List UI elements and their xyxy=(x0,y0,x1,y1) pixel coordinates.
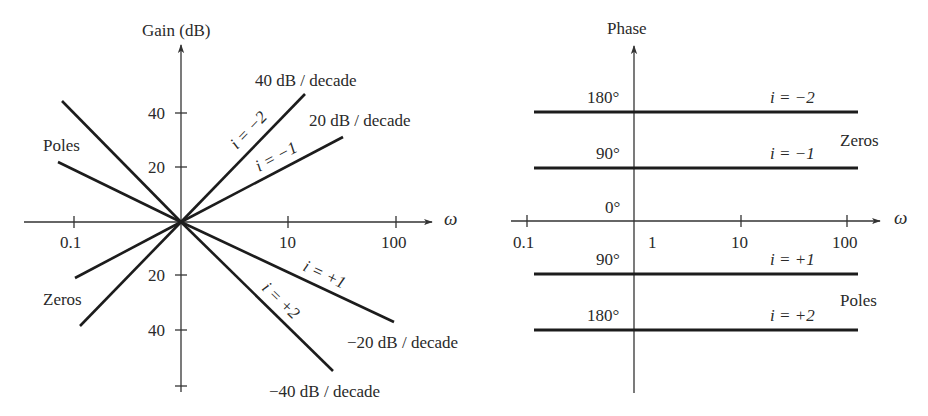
phase-x-tick-label-10: 10 xyxy=(731,233,748,252)
gain-y-tick-label-neg40: 40 xyxy=(148,321,165,340)
gain-x-tick-label-10: 10 xyxy=(279,233,296,252)
gain-poles-label: Poles xyxy=(43,136,80,155)
bode-asymptote-diagram: Gain (dB) ω 0.1 10 100 40 20 20 40 Poles… xyxy=(0,0,928,416)
gain-line-label-i-minus-2: i = −2 xyxy=(226,107,271,153)
gain-line-i-minus-1 xyxy=(181,137,343,222)
phase-level-label-neg90: 90° xyxy=(596,250,620,269)
gain-line-zeros-steep xyxy=(80,222,181,326)
gain-line-zeros-shallow xyxy=(75,222,181,278)
phase-line-label-i-plus-2: i = +2 xyxy=(770,306,815,325)
gain-x-tick-label-100: 100 xyxy=(381,233,407,252)
phase-x-tick-label-0.1: 0.1 xyxy=(513,233,534,252)
gain-line-label-i-minus-1: i = −1 xyxy=(252,138,300,176)
phase-level-label-180: 180° xyxy=(587,88,619,107)
gain-y-tick-label-20: 20 xyxy=(148,158,165,177)
gain-x-axis-label: ω xyxy=(444,208,457,229)
gain-x-tick-label-0.1: 0.1 xyxy=(60,233,81,252)
phase-line-label-i-plus-1: i = +1 xyxy=(770,250,815,269)
gain-y-tick-label-40: 40 xyxy=(148,104,165,123)
phase-level-label-neg180: 180° xyxy=(587,306,619,325)
phase-poles-label: Poles xyxy=(840,291,877,310)
gain-plot: Gain (dB) ω 0.1 10 100 40 20 20 40 Poles… xyxy=(24,21,458,401)
phase-level-label-0: 0° xyxy=(605,198,620,217)
gain-y-axis-label: Gain (dB) xyxy=(142,21,210,40)
phase-line-label-i-minus-1: i = −1 xyxy=(770,144,815,163)
phase-x-tick-label-1: 1 xyxy=(648,233,657,252)
gain-y-tick-label-neg20: 20 xyxy=(148,266,165,285)
slope-label-plus40: 40 dB / decade xyxy=(255,71,357,90)
gain-zeros-label: Zeros xyxy=(43,290,82,309)
phase-x-axis-label: ω xyxy=(894,207,907,228)
slope-label-plus20: 20 dB / decade xyxy=(309,111,411,130)
phase-level-label-90: 90° xyxy=(596,144,620,163)
phase-line-label-i-minus-2: i = −2 xyxy=(770,88,815,107)
gain-line-i-plus-2 xyxy=(181,222,333,371)
phase-y-axis-label: Phase xyxy=(607,19,647,38)
phase-plot: Phase ω 0.1 1 10 100 180° 90° 0° 90° 180… xyxy=(511,19,907,393)
gain-line-label-i-plus-1: i = +1 xyxy=(300,256,349,292)
phase-x-tick-label-100: 100 xyxy=(832,233,858,252)
gain-line-label-i-plus-2: i = +2 xyxy=(258,278,304,323)
slope-label-minus20: −20 dB / decade xyxy=(347,333,458,352)
slope-label-minus40: −40 dB / decade xyxy=(269,382,380,401)
phase-zeros-label: Zeros xyxy=(840,131,879,150)
